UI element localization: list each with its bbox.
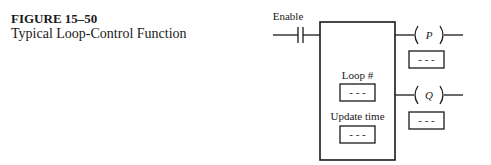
enable-label: Enable — [273, 10, 304, 22]
p-coil-right-paren — [440, 26, 443, 44]
p-coil-label: P — [425, 29, 433, 41]
loop-number-value: - - - — [349, 86, 366, 98]
p-coil-left-paren — [415, 26, 418, 44]
p-value: - - - — [418, 53, 435, 65]
q-coil-left-paren — [415, 86, 418, 104]
update-time-value: - - - — [349, 128, 366, 140]
ladder-diagram: Enable P - - - Q - - - Loop # - - - Upda… — [0, 0, 491, 165]
q-coil-right-paren — [440, 86, 443, 104]
loop-number-label: Loop # — [342, 69, 374, 81]
q-coil-label: Q — [425, 89, 433, 101]
update-time-label: Update time — [330, 110, 384, 122]
q-value: - - - — [418, 114, 435, 126]
